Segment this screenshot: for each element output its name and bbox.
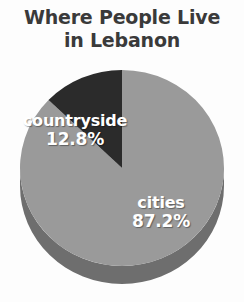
pie-chart-graphic — [0, 0, 244, 302]
pie-chart-svg — [0, 0, 244, 302]
pie-chart-figure: Where People Live in Lebanon countryside… — [0, 0, 244, 302]
